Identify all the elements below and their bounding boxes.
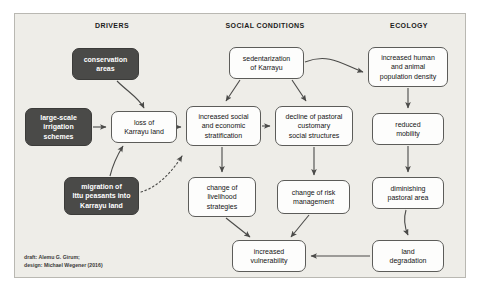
node-label: landdegradation — [390, 247, 427, 266]
node-sedentarization-of-karrayu[interactable]: sedentarizationof Karrayu — [229, 47, 304, 79]
node-loss-of-karrayu-land[interactable]: loss ofKarrayu land — [111, 111, 177, 143]
node-label: diminishingpastoral area — [388, 184, 429, 203]
node-label: change of riskmanagement — [292, 188, 336, 207]
node-label: loss ofKarrayu land — [124, 118, 164, 137]
diagram-page: DRIVERS SOCIAL CONDITIONS ECOLOGY conser… — [0, 0, 483, 295]
node-reduced-mobility[interactable]: reducedmobility — [372, 113, 444, 145]
node-conservation-areas[interactable]: conservationareas — [72, 48, 139, 80]
node-increased-human-animal-population-density[interactable]: increased humanand animalpopulation dens… — [368, 47, 448, 87]
credit-text: draft: Alemu G. Girum;design: Michael We… — [24, 254, 103, 270]
node-label: increased humanand animalpopulation dens… — [380, 53, 436, 81]
node-label: sedentarizationof Karrayu — [243, 54, 290, 73]
node-change-of-livelihood-strategies[interactable]: change oflivelihoodstrategies — [188, 177, 256, 217]
node-label: reducedmobility — [395, 120, 420, 139]
node-label: increasedvulnerability — [251, 247, 288, 266]
node-land-degradation[interactable]: landdegradation — [372, 240, 444, 272]
column-header-social-conditions: SOCIAL CONDITIONS — [225, 22, 304, 29]
node-large-scale-irrigation-schemes[interactable]: large-scaleirrigationschemes — [25, 108, 92, 146]
node-label: decline of pastoralcustomarysocial struc… — [286, 112, 343, 140]
node-label: conservationareas — [84, 55, 128, 74]
node-change-of-risk-management[interactable]: change of riskmanagement — [277, 180, 350, 214]
node-label: migration ofIttu peasants intoKarrayu la… — [73, 182, 131, 210]
column-header-ecology: ECOLOGY — [390, 22, 428, 29]
node-increased-social-stratification[interactable]: increased socialand economicstratificati… — [186, 106, 261, 146]
node-migration-of-ittu-peasants[interactable]: migration ofIttu peasants intoKarrayu la… — [64, 177, 139, 215]
node-diminishing-pastoral-area[interactable]: diminishingpastoral area — [372, 177, 444, 209]
node-label: large-scaleirrigationschemes — [40, 113, 77, 141]
node-decline-of-pastoral-structures[interactable]: decline of pastoralcustomarysocial struc… — [275, 106, 353, 146]
node-increased-vulnerability[interactable]: increasedvulnerability — [232, 240, 306, 272]
node-label: increased socialand economicstratificati… — [198, 112, 248, 140]
node-label: change oflivelihoodstrategies — [207, 183, 238, 211]
column-header-drivers: DRIVERS — [95, 22, 129, 29]
